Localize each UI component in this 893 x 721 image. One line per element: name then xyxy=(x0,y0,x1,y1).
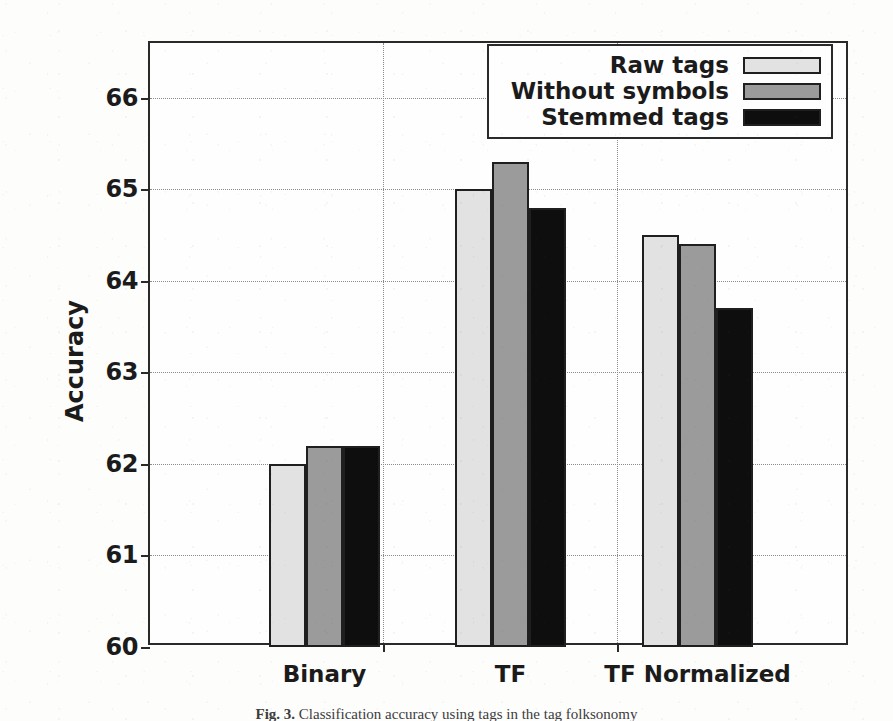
x-tick-mark-0 xyxy=(383,643,385,652)
legend-swatch-stemmed-tags xyxy=(743,109,821,126)
bar-binary-stemmed-tags xyxy=(343,446,380,647)
bar-binary-without-symbols xyxy=(306,446,343,647)
bar-tf-normalized-without-symbols xyxy=(679,244,716,647)
y-axis-title: Accuracy xyxy=(61,299,89,421)
legend-label-without-symbols: Without symbols xyxy=(511,78,729,104)
y-tick-mark-64 xyxy=(141,281,150,283)
legend-label-raw-tags: Raw tags xyxy=(610,52,729,78)
x-axis-label-binary: Binary xyxy=(283,661,367,687)
y-tick-label-66: 66 xyxy=(106,84,138,112)
legend-row-without-symbols: Without symbols xyxy=(499,78,821,104)
caption-text: Classification accuracy using tags in th… xyxy=(299,706,638,721)
bar-tf-normalized-raw-tags xyxy=(642,235,679,647)
y-tick-label-65: 65 xyxy=(106,175,138,203)
y-tick-label-62: 62 xyxy=(106,450,138,478)
y-tick-label-61: 61 xyxy=(106,541,138,569)
gridline-x-0 xyxy=(383,43,384,643)
x-axis-label-tf: TF xyxy=(495,661,526,687)
bar-tf-normalized-stemmed-tags xyxy=(716,308,753,647)
bar-tf-raw-tags xyxy=(455,189,492,647)
legend-row-raw-tags: Raw tags xyxy=(499,52,821,78)
legend-swatch-raw-tags xyxy=(743,57,821,74)
legend-label-stemmed-tags: Stemmed tags xyxy=(541,104,729,130)
y-tick-mark-65 xyxy=(141,189,150,191)
legend-row-stemmed-tags: Stemmed tags xyxy=(499,104,821,130)
legend: Raw tagsWithout symbolsStemmed tags xyxy=(487,44,833,139)
y-tick-mark-61 xyxy=(141,555,150,557)
bar-binary-raw-tags xyxy=(269,464,306,647)
y-tick-label-64: 64 xyxy=(106,267,138,295)
bar-tf-without-symbols xyxy=(492,162,529,647)
y-tick-mark-66 xyxy=(141,98,150,100)
bar-tf-stemmed-tags xyxy=(529,208,566,647)
figure-caption: Fig. 3. Classification accuracy using ta… xyxy=(0,706,893,721)
x-axis-label-tf-normalized: TF Normalized xyxy=(604,661,791,687)
legend-swatch-without-symbols xyxy=(743,83,821,100)
y-tick-label-60: 60 xyxy=(106,633,138,661)
caption-label: Fig. 3. xyxy=(255,706,295,721)
x-tick-mark-1 xyxy=(617,643,619,652)
y-tick-mark-60 xyxy=(141,647,150,649)
y-tick-mark-63 xyxy=(141,372,150,374)
y-tick-label-63: 63 xyxy=(106,358,138,386)
y-tick-mark-62 xyxy=(141,464,150,466)
figure-page: Accuracy 60616263646566 BinaryTFTF Norma… xyxy=(0,0,893,721)
